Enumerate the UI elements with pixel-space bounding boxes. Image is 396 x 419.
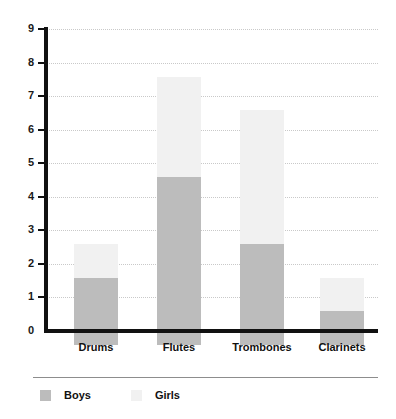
plot-area: 9 8 7 6 5 4 3 2 1 0 Drums Flutes Trombon… (0, 0, 396, 345)
x-axis-label-drums: Drums (56, 341, 136, 353)
bar-group-trombones (240, 15, 284, 345)
y-axis-label-0: 0 (12, 325, 34, 336)
legend-item-boys: Boys (40, 389, 91, 401)
y-axis-tick (38, 129, 45, 131)
y-axis-line (44, 27, 48, 333)
y-axis-tick (38, 162, 45, 164)
bar-segment-flutes-girls (157, 77, 201, 178)
bar-group-drums (74, 15, 118, 345)
y-axis-label-5: 5 (12, 157, 34, 168)
y-axis-tick (38, 95, 45, 97)
bar-segment-clarinets-girls (320, 278, 364, 312)
bar-segment-flutes-boys (157, 177, 201, 345)
legend-swatch-girls-icon (131, 390, 142, 401)
y-axis-tick (38, 296, 45, 298)
bar-segment-drums-girls (74, 244, 118, 278)
bar-group-flutes (157, 15, 201, 345)
x-axis-label-flutes: Flutes (139, 341, 219, 353)
bar-group-clarinets (320, 15, 364, 345)
bar-segment-drums-boys (74, 278, 118, 345)
y-axis-label-4: 4 (12, 191, 34, 202)
x-axis-label-trombones: Trombones (218, 341, 306, 353)
stacked-bar-chart: 9 8 7 6 5 4 3 2 1 0 Drums Flutes Trombon… (0, 0, 396, 419)
x-axis-line (44, 329, 378, 333)
y-axis-label-8: 8 (12, 57, 34, 68)
y-axis-tick (38, 196, 45, 198)
bar-segment-trombones-girls (240, 110, 284, 244)
legend-swatch-boys-icon (40, 390, 51, 401)
y-axis-label-3: 3 (12, 224, 34, 235)
legend: Boys Girls (40, 389, 220, 401)
y-axis-label-9: 9 (12, 23, 34, 34)
legend-item-girls: Girls (131, 389, 180, 401)
legend-label-girls: Girls (155, 389, 180, 401)
legend-separator (33, 377, 378, 378)
y-axis-label-7: 7 (12, 90, 34, 101)
y-axis-tick (38, 62, 45, 64)
y-axis-label-6: 6 (12, 124, 34, 135)
y-axis-label-2: 2 (12, 258, 34, 269)
y-axis-tick (38, 263, 45, 265)
y-axis-tick (38, 229, 45, 231)
legend-label-boys: Boys (64, 389, 91, 401)
y-axis-tick (38, 28, 45, 30)
y-axis-label-1: 1 (12, 291, 34, 302)
x-axis-label-clarinets: Clarinets (302, 341, 382, 353)
